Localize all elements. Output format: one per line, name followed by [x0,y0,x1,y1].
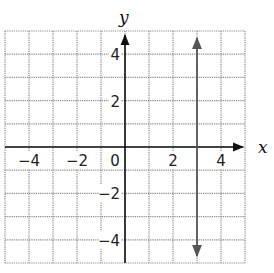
y-axis-label: y [118,7,129,27]
y-tick-label: −2 [98,185,120,203]
axes [5,35,243,263]
y-tick-label: −4 [98,232,120,250]
y-tick-label: 2 [110,93,120,111]
x-axis-label: x [258,137,268,157]
y-tick-label: 4 [110,46,120,64]
x-tick-label: −2 [66,152,88,170]
x-tick-label: 4 [216,152,226,170]
x-tick-label: 0 [110,152,120,170]
coordinate-plane: −4−202442−2−4 x y [0,0,274,273]
x-tick-label: −4 [18,152,40,170]
x-tick-label: 2 [168,152,178,170]
